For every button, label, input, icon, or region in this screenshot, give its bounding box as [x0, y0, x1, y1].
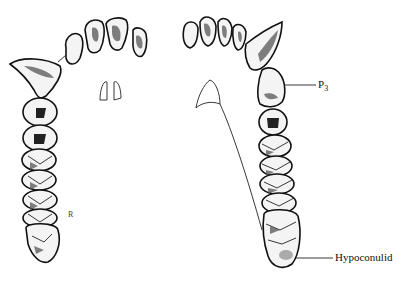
p3-label: P3: [318, 78, 328, 93]
right-p3: [258, 68, 285, 107]
hypoconulid-label: Hypoconulid: [335, 251, 392, 263]
dental-illustration: R: [0, 0, 403, 283]
left-incisors: [66, 18, 147, 64]
isolated-incisors: [100, 82, 121, 100]
right-molar-row: [259, 109, 300, 267]
left-molar-row: [22, 98, 59, 262]
small-mark: R: [68, 210, 74, 219]
jaw-outline: [196, 80, 262, 230]
right-incisors: [183, 17, 246, 50]
right-canine: [245, 22, 282, 70]
left-canine: [10, 55, 66, 98]
